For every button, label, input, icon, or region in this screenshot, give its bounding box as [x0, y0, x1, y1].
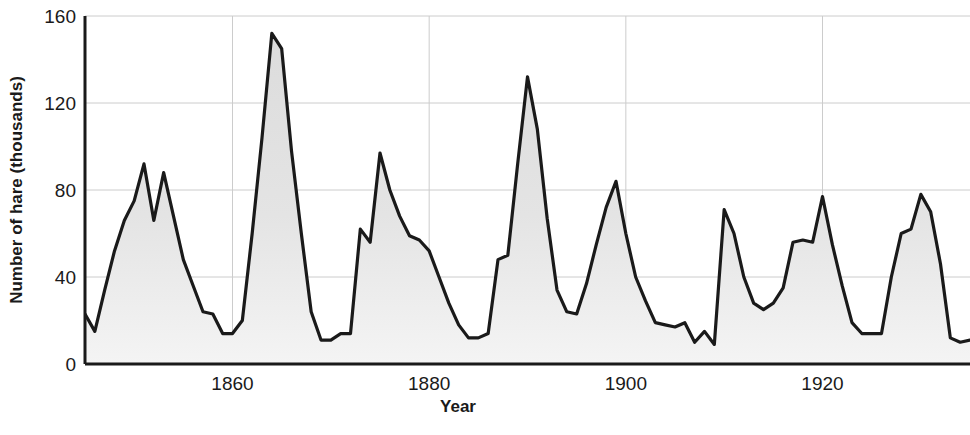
y-tick-label: 40	[55, 267, 76, 288]
x-tick-label: 1900	[605, 373, 647, 394]
x-tick-label: 1860	[211, 373, 253, 394]
chart-canvas: 04080120160 1860188019001920 Year Number…	[0, 0, 970, 435]
y-tick-label: 80	[55, 180, 76, 201]
x-tick-label: 1920	[801, 373, 843, 394]
x-tick-label: 1880	[408, 373, 450, 394]
hare-population-chart: 04080120160 1860188019001920 Year Number…	[0, 0, 970, 435]
y-axis-title: Number of hare (thousands)	[7, 76, 26, 304]
y-tick-label: 120	[44, 93, 76, 114]
y-tick-label: 0	[65, 354, 76, 375]
x-axis-title: Year	[440, 397, 476, 416]
y-tick-label: 160	[44, 6, 76, 27]
